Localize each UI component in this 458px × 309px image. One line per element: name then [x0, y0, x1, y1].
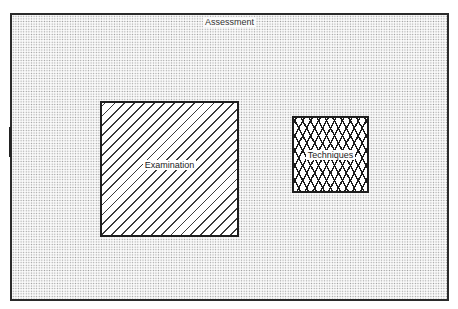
techniques-label: Techniques — [294, 150, 367, 160]
assessment-label-text: Assessment — [203, 17, 256, 27]
examination-label-text: Examination — [143, 160, 197, 170]
techniques-region: Techniques — [292, 116, 369, 193]
examination-label: Examination — [102, 160, 237, 170]
assessment-label: Assessment — [12, 17, 447, 27]
techniques-label-text: Techniques — [306, 150, 356, 160]
examination-region: Examination — [100, 101, 239, 237]
left-edge-mark — [9, 127, 11, 157]
